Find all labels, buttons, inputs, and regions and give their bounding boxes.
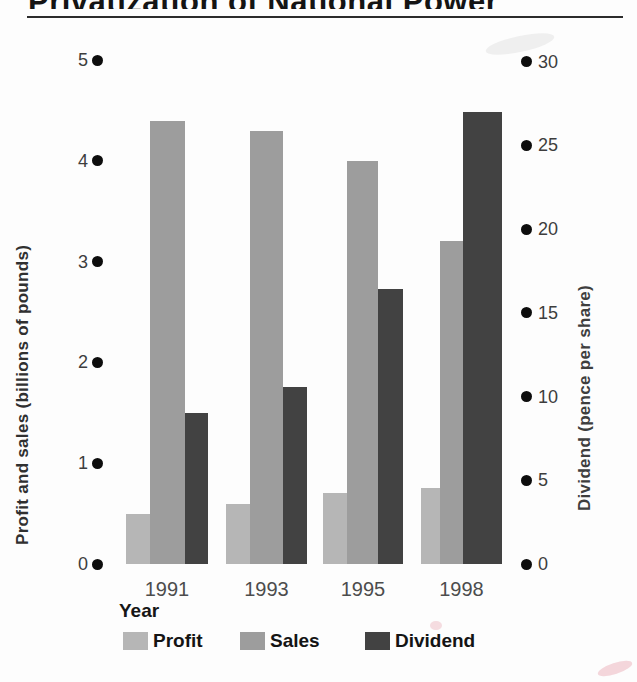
- tick-dot-icon: [521, 224, 532, 235]
- bar-profit-1993: [226, 504, 250, 565]
- bar-profit-1991: [126, 514, 150, 564]
- legend-item-dividend: Dividend: [365, 631, 475, 651]
- tick-label: 25: [538, 136, 578, 154]
- bar-profit-1995: [323, 493, 347, 564]
- tick-dot-icon: [521, 56, 532, 67]
- tick-label: 3: [54, 253, 88, 271]
- tick-dot-icon: [521, 307, 532, 318]
- bar-sales-1995: [347, 161, 378, 564]
- legend-label: Dividend: [395, 631, 475, 651]
- tick-label: 1: [54, 454, 88, 472]
- bar-profit-1998: [421, 488, 440, 564]
- x-axis-title: Year: [119, 600, 159, 622]
- bar-sales-1993: [250, 131, 283, 564]
- bar-dividend-1991: [185, 413, 208, 564]
- legend-label: Profit: [153, 631, 203, 651]
- tick-label: 4: [54, 152, 88, 170]
- tick-dot-icon: [92, 155, 103, 166]
- tick-label: 15: [538, 304, 578, 322]
- legend-swatch-icon: [240, 632, 265, 650]
- x-tick-label-1995: 1995: [328, 578, 398, 601]
- x-tick-label-1998: 1998: [427, 578, 497, 601]
- bar-sales-1991: [150, 121, 185, 565]
- tick-label: 5: [538, 471, 578, 489]
- tick-label: 2: [54, 353, 88, 371]
- tick-label: 0: [538, 555, 578, 573]
- bar-dividend-1995: [378, 289, 403, 564]
- tick-label: 20: [538, 220, 578, 238]
- tick-dot-icon: [521, 391, 532, 402]
- tick-dot-icon: [521, 475, 532, 486]
- legend-swatch-icon: [365, 632, 390, 650]
- bar-dividend-1993: [283, 387, 307, 565]
- scanned-chart-page: Privatization of National Power 012345 0…: [0, 0, 637, 682]
- x-tick-label-1993: 1993: [232, 578, 302, 601]
- x-tick-label-1991: 1991: [132, 578, 202, 601]
- chart-legend: ProfitSalesDividend: [0, 631, 637, 653]
- legend-swatch-icon: [123, 632, 148, 650]
- bar-sales-1998: [440, 241, 463, 564]
- legend-label: Sales: [270, 631, 320, 651]
- legend-item-sales: Sales: [240, 631, 320, 651]
- tick-dot-icon: [521, 140, 532, 151]
- bar-dividend-1998: [463, 112, 502, 564]
- tick-dot-icon: [92, 256, 103, 267]
- tick-label: 10: [538, 388, 578, 406]
- tick-dot-icon: [92, 55, 103, 66]
- tick-dot-icon: [92, 559, 103, 570]
- tick-dot-icon: [92, 357, 103, 368]
- tick-dot-icon: [521, 559, 532, 570]
- right-axis-title: Dividend (pence per share): [574, 188, 596, 608]
- legend-item-profit: Profit: [123, 631, 203, 651]
- tick-label: 5: [54, 51, 88, 69]
- tick-label: 0: [54, 555, 88, 573]
- tick-dot-icon: [92, 458, 103, 469]
- left-axis-title: Profit and sales (billions of pounds): [12, 185, 34, 605]
- tick-label: 30: [538, 53, 578, 71]
- bar-chart: 012345 051015202530 1991199319951998 Pro…: [0, 0, 637, 682]
